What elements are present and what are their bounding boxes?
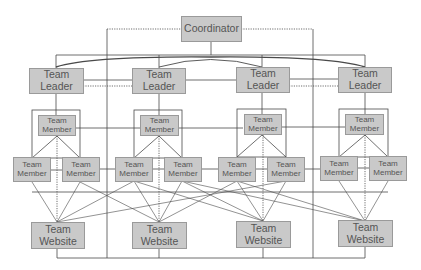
team-2-website: Team Website [132, 222, 187, 249]
website-label-line1: Team [353, 222, 379, 234]
member-label-line2: Member [17, 170, 46, 179]
team-3-bottom-member-1: Team Member [218, 157, 256, 182]
member-label-line2: Member [66, 170, 95, 179]
member-label-line2: Member [248, 125, 277, 134]
website-label-line2: Website [39, 236, 77, 248]
team-1-top-member: Team Member [38, 115, 76, 136]
team-leader-4: Team Leader [338, 67, 392, 93]
coordinator-label: Coordinator [184, 23, 239, 35]
team-2-bottom-member-1: Team Member [115, 157, 153, 182]
member-label-line2: Member [271, 170, 300, 179]
member-label-line2: Member [350, 125, 379, 134]
team-4-bottom-member-2: Team Member [369, 156, 407, 181]
team-4-top-member: Team Member [345, 114, 384, 135]
team-1-bottom-member-2: Team Member [62, 157, 100, 182]
member-label-line2: Member [168, 170, 197, 179]
member-label-line2: Member [324, 169, 353, 178]
team-structure-diagram: Coordinator Team Leader Team Leader Team… [0, 0, 421, 270]
website-label-line1: Team [147, 224, 173, 236]
leader-label-line2: Leader [40, 81, 73, 93]
team-2-bottom-member-2: Team Member [164, 157, 202, 182]
team-4-website: Team Website [338, 220, 393, 247]
team-1-website: Team Website [31, 222, 85, 249]
coordinator-box: Coordinator [181, 16, 242, 42]
team-4-bottom-member-1: Team Member [320, 156, 358, 181]
leader-label-line2: Leader [247, 80, 280, 92]
website-label-line1: Team [45, 224, 71, 236]
website-label-line2: Website [347, 234, 385, 246]
leader-label-line2: Leader [143, 81, 176, 93]
team-3-top-member: Team Member [244, 114, 282, 135]
member-label-line2: Member [119, 170, 148, 179]
website-label-line2: Website [245, 235, 283, 247]
member-label-line2: Member [42, 126, 71, 135]
team-1-bottom-member-1: Team Member [13, 157, 51, 182]
leader-label-line2: Leader [349, 80, 382, 92]
team-3-bottom-member-2: Team Member [267, 157, 305, 182]
team-leader-2: Team Leader [132, 68, 186, 94]
team-3-website: Team Website [236, 221, 291, 248]
member-label-line2: Member [373, 169, 402, 178]
team-leader-1: Team Leader [29, 68, 84, 94]
team-leader-3: Team Leader [236, 67, 290, 93]
website-label-line2: Website [141, 236, 179, 248]
member-label-line2: Member [145, 126, 174, 135]
member-label-line2: Member [222, 170, 251, 179]
website-label-line1: Team [251, 223, 277, 235]
team-2-top-member: Team Member [140, 115, 179, 136]
